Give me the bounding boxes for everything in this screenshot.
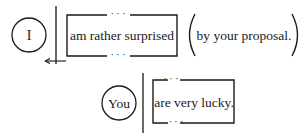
predicate-label: am rather surprised (70, 28, 174, 43)
ellipsis-bottom: · · · (169, 116, 184, 127)
ellipsis-top: · · · (164, 73, 179, 84)
row-1: I · · · · · · am rather surprised by you… (12, 6, 298, 64)
subject-label: I (27, 28, 32, 43)
paren-left (190, 14, 196, 56)
row-2: You · · · · · · are very lucky. (102, 73, 234, 133)
modifier-label: by your proposal. (197, 28, 292, 43)
paren-right (292, 14, 298, 56)
ellipsis-top: · · · (111, 8, 126, 19)
predicate-label: are very lucky. (154, 95, 234, 110)
sentence-diagram: I · · · · · · am rather surprised by you… (0, 0, 308, 138)
subject-label: You (108, 96, 130, 111)
ellipsis-bottom: · · · (111, 49, 126, 60)
